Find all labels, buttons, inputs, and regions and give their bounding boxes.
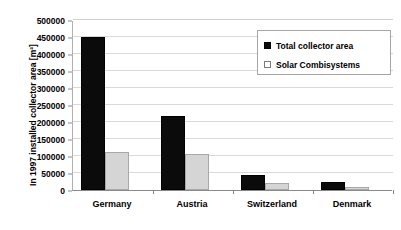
bar-chart: In 1997 installed collector area [m²] 05… [0, 0, 401, 230]
x-tick-label-austria: Austria [176, 199, 207, 209]
y-tick-label: 400000 [37, 50, 65, 60]
gridline [73, 19, 393, 20]
y-tick-label: 0 [60, 186, 65, 196]
y-tick-label: 500000 [37, 16, 65, 26]
bar-switzerland-total-collector-area [241, 175, 265, 190]
gridline [73, 138, 393, 139]
y-tick-label: 300000 [37, 84, 65, 94]
gridline [73, 104, 393, 105]
legend-label: Total collector area [276, 41, 353, 51]
bar-germany-total-collector-area [81, 37, 105, 190]
legend-swatch-icon [264, 42, 271, 49]
y-tick-label: 450000 [37, 33, 65, 43]
chart-legend: Total collector areaSolar Combisystems [257, 30, 391, 75]
gridline [73, 121, 393, 122]
y-tick-label: 350000 [37, 67, 65, 77]
bar-austria-solar-combisystems [185, 154, 209, 190]
y-axis-tick-labels: 0500001000001500002000002500003000003500… [0, 0, 70, 230]
legend-item-total-collector-area: Total collector area [264, 37, 384, 54]
x-tick-label-switzerland: Switzerland [247, 199, 297, 209]
x-axis-tick-labels: GermanyAustriaSwitzerlandDenmark [72, 193, 392, 215]
gridline [73, 87, 393, 88]
y-tick-label: 50000 [41, 169, 65, 179]
legend-label: Solar Combisystems [276, 60, 360, 70]
legend-swatch-icon [264, 61, 271, 68]
bar-denmark-solar-combisystems [345, 187, 369, 190]
legend-item-solar-combisystems: Solar Combisystems [264, 56, 384, 73]
y-tick-label: 200000 [37, 118, 65, 128]
bar-denmark-total-collector-area [321, 182, 345, 190]
y-tick-label: 250000 [37, 101, 65, 111]
bar-switzerland-solar-combisystems [265, 183, 289, 190]
x-tick-label-denmark: Denmark [333, 199, 372, 209]
bar-germany-solar-combisystems [105, 152, 129, 190]
bar-austria-total-collector-area [161, 116, 185, 190]
y-tick-label: 100000 [37, 152, 65, 162]
y-tick-label: 150000 [37, 135, 65, 145]
x-tick-label-germany: Germany [92, 199, 131, 209]
x-axis-category-separator [393, 190, 394, 194]
